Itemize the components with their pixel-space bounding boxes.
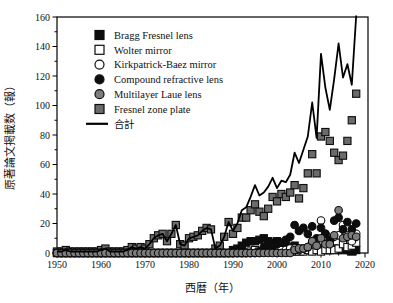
legend-item: Bragg Fresnel lens — [95, 30, 193, 41]
data-point — [304, 170, 311, 177]
legend-item: Compound refractive lens — [95, 74, 223, 85]
y-tick-label: 100 — [35, 100, 50, 111]
data-point — [326, 137, 333, 144]
legend-label: Compound refractive lens — [114, 74, 223, 85]
x-tick-label: 2010 — [311, 259, 331, 270]
filled-black-circle-icon — [95, 75, 104, 84]
figure: 1950196019701980199020002010202002040608… — [0, 0, 393, 303]
y-axis-title: 原著論文掲載数（報） — [3, 80, 16, 190]
x-tick-label: 1990 — [223, 259, 243, 270]
data-point — [300, 185, 307, 192]
x-tick-label: 1950 — [47, 259, 67, 270]
x-tick-label: 2000 — [267, 259, 287, 270]
data-point — [330, 232, 338, 240]
legend-item: Wolter mirror — [95, 45, 172, 56]
y-tick-label: 160 — [35, 12, 50, 23]
open-circle-icon — [95, 60, 104, 69]
data-point — [344, 137, 351, 144]
legend-label: Wolter mirror — [114, 45, 172, 56]
filled-gray-circle-icon — [95, 90, 104, 99]
data-point — [313, 242, 321, 250]
data-point — [287, 189, 294, 196]
chart-svg: 1950196019701980199020002010202002040608… — [0, 0, 393, 303]
data-point — [352, 220, 360, 228]
data-point — [308, 223, 316, 231]
y-tick-label: 120 — [35, 71, 50, 82]
data-point — [326, 240, 334, 248]
legend-item: Fresnel zone plate — [95, 104, 191, 115]
data-point — [348, 117, 355, 124]
x-axis-title: 西暦（年） — [185, 281, 240, 294]
y-tick-label: 80 — [40, 130, 50, 141]
data-point — [317, 217, 325, 225]
x-tick-label: 2020 — [355, 259, 375, 270]
legend-label: Kirkpatrick-Baez mirror — [114, 59, 217, 70]
data-point — [352, 233, 360, 241]
data-point — [304, 230, 312, 238]
data-point — [335, 206, 343, 214]
y-tick-label: 20 — [40, 218, 50, 229]
y-tick-label: 0 — [45, 248, 50, 259]
data-point — [243, 214, 250, 221]
y-tick-label: 40 — [40, 189, 50, 200]
data-point — [344, 218, 352, 226]
y-tick-label: 60 — [40, 159, 50, 170]
legend-label: Fresnel zone plate — [114, 104, 191, 115]
x-tick-label: 1960 — [91, 259, 111, 270]
y-tick-label: 140 — [35, 41, 50, 52]
filled-black-square-icon — [95, 31, 104, 40]
data-point — [291, 182, 298, 189]
filled-gray-square-icon — [95, 105, 104, 114]
data-point — [265, 205, 272, 212]
data-point — [331, 149, 338, 156]
x-tick-label: 1980 — [179, 259, 199, 270]
data-point — [260, 213, 267, 220]
data-point — [309, 151, 316, 158]
data-point — [339, 226, 347, 234]
data-point — [322, 128, 329, 135]
data-point — [335, 214, 343, 222]
legend-item: Multilayer Laue lens — [95, 89, 201, 100]
legend-label: Bragg Fresnel lens — [114, 30, 193, 41]
legend-label: 合計 — [114, 118, 135, 130]
legend-item: 合計 — [86, 118, 135, 130]
data-point — [273, 198, 280, 205]
open-square-icon — [95, 45, 104, 54]
data-point — [251, 201, 258, 208]
data-point — [295, 195, 302, 202]
data-point — [286, 233, 294, 241]
legend-item: Kirkpatrick-Baez mirror — [95, 59, 217, 70]
legend-label: Multilayer Laue lens — [114, 89, 201, 100]
legend: Bragg Fresnel lensWolter mirrorKirkpatri… — [86, 30, 223, 130]
data-point — [313, 170, 320, 177]
data-point — [353, 90, 360, 97]
data-point — [339, 152, 346, 159]
x-tick-label: 1970 — [135, 259, 155, 270]
